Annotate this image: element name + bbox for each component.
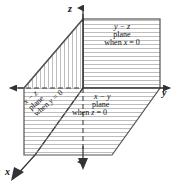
plane-xy-when: when [72, 108, 91, 117]
axis-z-negative-arrowhead [78, 158, 88, 170]
plane-label-xy: x − y plane when z = 0 [88, 93, 148, 117]
plane-yz-when: when [104, 38, 123, 47]
plane-label-yz: y − z plane when x = 0 [93, 23, 151, 47]
coordinate-planes-figure: z y x y − z plane when x = 0 x − y plane… [0, 0, 174, 184]
plane-yz-line3: when x = 0 [93, 39, 151, 47]
axis-label-y: y [162, 88, 166, 98]
plane-xy-line3: when z = 0 [72, 109, 148, 117]
plane-yz-eq: = 0 [127, 38, 140, 47]
axis-label-x: x [5, 167, 10, 177]
axis-label-z: z [68, 4, 72, 14]
plane-xy-eq: = 0 [94, 108, 107, 117]
